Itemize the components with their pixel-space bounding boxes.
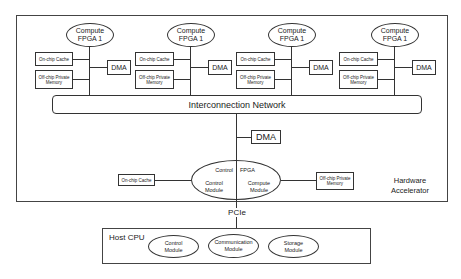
on-chip-cache-box: On-chip Cache	[35, 52, 73, 66]
module-line1: Communication	[214, 239, 252, 246]
pcie-label: PCIe	[222, 208, 252, 217]
module-line1: Storage	[284, 240, 303, 247]
host-storage-module: Storage Module	[268, 235, 319, 258]
cache-label: On-chip Cache	[343, 57, 373, 62]
fpga-label-line1: Compute	[278, 27, 306, 35]
interconnect-label: Interconnection Network	[188, 100, 285, 110]
on-chip-cache-box: On-chip Cache	[236, 52, 275, 66]
connector	[275, 79, 291, 80]
dma-label: DMA	[111, 64, 127, 72]
connector	[73, 59, 89, 60]
compute-module-line2: Module	[240, 187, 278, 194]
connector	[174, 59, 190, 60]
compute-fpga-node: Compute FPGA 1	[268, 23, 316, 47]
connector	[378, 59, 394, 60]
interconnection-network: Interconnection Network	[52, 95, 422, 114]
mem-label-line2: Memory	[247, 80, 263, 85]
connector	[174, 79, 190, 80]
module-line2: Module	[284, 247, 302, 254]
label-line2: Accelerator	[385, 186, 435, 196]
node-bus	[190, 45, 191, 95]
off-chip-memory-box: Off-chip PrivateMemory	[236, 70, 275, 89]
control-module-line1: Control	[195, 180, 233, 187]
compute-module-label: Compute Module	[240, 180, 278, 194]
host-communication-module: Communication Module	[208, 234, 259, 258]
node-bus	[89, 45, 90, 95]
control-module-line2: Module	[195, 187, 233, 194]
on-chip-cache-box: On-chip Cache	[339, 52, 378, 66]
fpga-label-line2: FPGA 1	[78, 35, 103, 43]
dma-label: DMA	[416, 64, 432, 72]
central-on-chip-cache-box: On-chip Cache	[118, 174, 155, 186]
fpga-label-line2: FPGA 1	[280, 35, 305, 43]
fpga-label-line1: Compute	[381, 27, 409, 35]
dma-label: DMA	[256, 132, 276, 142]
off-chip-memory-box: Off-chip PrivateMemory	[135, 70, 174, 89]
label-line1: Hardware	[385, 176, 435, 186]
compute-fpga-node: Compute FPGA 1	[66, 23, 114, 47]
central-off-chip-memory-box: Off-chip PrivateMemory	[316, 172, 354, 190]
host-cpu-title: Host CPU	[109, 233, 145, 242]
off-chip-memory-box: Off-chip PrivateMemory	[35, 70, 73, 89]
mem-label-line2: Memory	[350, 80, 366, 85]
hardware-accelerator-label: Hardware Accelerator	[385, 176, 435, 196]
fpga-label-line2: FPGA 1	[179, 35, 204, 43]
cache-label: On-chip Cache	[240, 57, 270, 62]
module-line2: Module	[164, 247, 182, 254]
off-chip-memory-box: Off-chip PrivateMemory	[339, 70, 378, 89]
cache-label: On-chip Cache	[121, 178, 151, 183]
compute-fpga-node: Compute FPGA 1	[371, 23, 419, 47]
fpga-label-line2: FPGA 1	[383, 35, 408, 43]
dma-box: DMA	[412, 60, 436, 75]
mem-label-line2: Memory	[327, 181, 343, 186]
connector	[154, 180, 192, 181]
compute-module-line1: Compute	[240, 180, 278, 187]
fpga-label: FPGA	[240, 167, 278, 173]
dma-label: DMA	[313, 64, 329, 72]
control-module-label: Control Module	[195, 180, 233, 194]
connector	[394, 67, 412, 68]
connector	[236, 137, 251, 138]
cache-label: On-chip Cache	[39, 57, 69, 62]
on-chip-cache-box: On-chip Cache	[135, 52, 174, 66]
connector	[378, 79, 394, 80]
compute-fpga-node: Compute FPGA 1	[167, 23, 215, 47]
fpga-label-line1: Compute	[76, 27, 104, 35]
dma-box: DMA	[309, 60, 333, 75]
connector	[190, 67, 208, 68]
mem-label-line2: Memory	[46, 80, 62, 85]
fpga-label-line1: Compute	[177, 27, 205, 35]
host-control-module: Control Module	[148, 235, 199, 258]
connector	[281, 180, 316, 181]
connector	[275, 59, 291, 60]
mem-label-line2: Memory	[146, 80, 162, 85]
dma-label: DMA	[212, 64, 228, 72]
module-line2: Module	[224, 246, 242, 253]
central-dma-box: DMA	[251, 130, 281, 144]
node-bus	[394, 45, 395, 95]
connector	[89, 67, 107, 68]
connector	[291, 67, 309, 68]
dma-box: DMA	[107, 60, 131, 75]
central-bus	[236, 160, 237, 200]
dma-box: DMA	[208, 60, 232, 75]
cache-label: On-chip Cache	[139, 57, 169, 62]
module-line1: Control	[165, 240, 183, 247]
control-label: Control	[195, 167, 233, 173]
connector	[73, 79, 89, 80]
node-bus	[291, 45, 292, 95]
